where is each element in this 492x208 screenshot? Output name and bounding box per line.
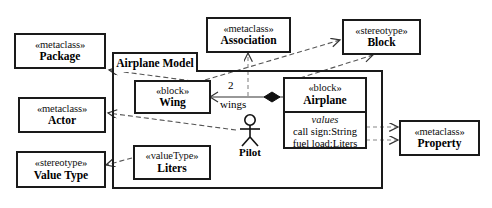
node-metaclass-package-stereotype: «metaclass» [35,39,85,51]
value-property-call-sign: call sign:String [293,126,357,138]
node-block-wing-stereotype: «block» [156,85,189,97]
association-multiplicity: 2 [228,79,234,91]
node-block-airplane-header: «block» Airplane [285,79,365,113]
node-metaclass-actor-name: Actor [48,114,76,127]
node-valuetype-liters-name: Liters [157,162,186,175]
node-metaclass-association[interactable]: «metaclass» Association [206,17,291,53]
actor-pilot[interactable]: Pilot [232,112,268,160]
node-stereotype-block-name: Block [367,36,395,49]
node-block-wing[interactable]: «block» Wing [134,80,211,114]
node-valuetype-liters[interactable]: «valueType» Liters [133,145,211,180]
node-stereotype-block[interactable]: «stereotype» Block [342,19,421,55]
node-block-airplane-values-compartment: values call sign:String fuel load:Liters [285,113,365,152]
node-metaclass-association-name: Association [220,34,276,47]
node-valuetype-liters-stereotype: «valueType» [146,150,199,162]
node-metaclass-actor-stereotype: «metaclass» [37,103,87,115]
node-metaclass-association-stereotype: «metaclass» [223,23,273,35]
node-stereotype-value-type-stereotype: «stereotype» [35,157,87,169]
node-block-airplane-stereotype: «block» [308,82,341,94]
node-metaclass-package-name: Package [40,50,81,63]
node-stereotype-value-type-name: Value Type [34,169,88,182]
node-stereotype-value-type[interactable]: «stereotype» Value Type [16,151,106,188]
association-role-name: wings [220,98,246,110]
node-block-wing-name: Wing [159,96,186,109]
node-metaclass-package[interactable]: «metaclass» Package [14,33,106,69]
value-property-fuel-load: fuel load:Liters [293,138,357,150]
package-frame-tab[interactable]: Airplane Model [112,52,198,72]
node-metaclass-property-stereotype: «metaclass» [414,126,464,138]
actor-pilot-label: Pilot [232,146,268,158]
node-metaclass-actor[interactable]: «metaclass» Actor [18,97,106,133]
node-metaclass-property[interactable]: «metaclass» Property [399,120,480,156]
node-metaclass-property-name: Property [418,137,462,150]
node-block-airplane[interactable]: «block» Airplane values call sign:String… [283,77,367,149]
uml-diagram-canvas: Airplane Model «metaclass» Package «meta… [0,0,492,208]
values-compartment-label: values [312,114,339,126]
node-block-airplane-name: Airplane [303,94,346,107]
node-stereotype-block-stereotype: «stereotype» [355,25,407,37]
package-frame-label: Airplane Model [116,57,194,69]
